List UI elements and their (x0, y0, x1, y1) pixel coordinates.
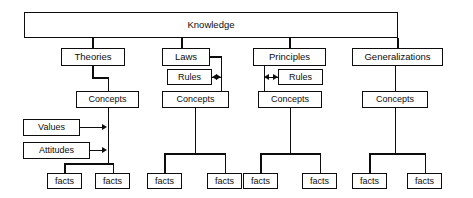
edge-theories-facts-bus (64, 163, 114, 165)
node-generalizations-concepts: Concepts (362, 91, 428, 108)
edge-generalizations-concepts-stem (395, 108, 397, 154)
arrowhead-laws-rules-right (216, 74, 221, 80)
node-facts: facts (243, 173, 278, 189)
edge-principles-concepts-stem (290, 108, 292, 154)
node-principles-rules: Rules (278, 69, 323, 85)
node-facts: facts (47, 173, 82, 189)
edge-theories-jog (92, 77, 109, 79)
node-laws: Laws (162, 48, 210, 66)
edge-theories-to-concepts (108, 77, 110, 91)
node-laws-rules: Rules (167, 69, 212, 85)
node-values: Values (23, 119, 80, 136)
node-knowledge: Knowledge (24, 12, 398, 38)
node-facts: facts (302, 173, 337, 189)
arrowhead-attitudes (102, 147, 107, 153)
edge-knowledge-to-laws (181, 38, 183, 48)
edge-knowledge-to-principles (289, 38, 291, 48)
edge-generalizations-facts-bus (369, 153, 426, 155)
node-facts: facts (352, 173, 387, 189)
edge-knowledge-to-generalizations (397, 38, 399, 48)
edge-attitudes-to-spine (90, 150, 102, 152)
node-attitudes: Attitudes (23, 142, 90, 159)
edge-generalizations-facts-right-drop (425, 153, 427, 173)
node-laws-concepts: Concepts (162, 91, 229, 108)
edge-principles-facts-right-drop (320, 153, 322, 173)
node-facts: facts (207, 173, 242, 189)
edge-knowledge-to-theories (92, 38, 94, 48)
edge-laws-facts-left-drop (164, 153, 166, 173)
node-facts: facts (147, 173, 182, 189)
arrowhead-principles-rules-left (264, 74, 269, 80)
node-principles-concepts: Concepts (258, 91, 322, 108)
node-principles: Principles (253, 48, 326, 66)
edge-values-to-spine (80, 127, 102, 129)
node-theories-concepts: Concepts (76, 91, 139, 108)
node-generalizations: Generalizations (352, 48, 443, 66)
edge-laws-facts-right-drop (225, 153, 227, 173)
edge-generalizations-to-concepts (395, 66, 397, 91)
edge-laws-concepts-stem (195, 108, 197, 154)
knowledge-hierarchy-diagram: Knowledge Theories Concepts Values Attit… (0, 0, 473, 198)
arrowhead-values (102, 124, 107, 130)
edge-theories-facts-left-drop (64, 163, 66, 173)
node-facts: facts (95, 173, 130, 189)
edge-principles-facts-bus (260, 153, 321, 155)
edge-theories-concepts-spine (108, 108, 110, 163)
edge-generalizations-facts-left-drop (369, 153, 371, 173)
edge-principles-facts-left-drop (260, 153, 262, 173)
node-theories: Theories (61, 48, 125, 66)
edge-theories-facts-right-drop (113, 163, 115, 173)
node-facts: facts (407, 173, 442, 189)
edge-laws-facts-bus (164, 153, 226, 155)
